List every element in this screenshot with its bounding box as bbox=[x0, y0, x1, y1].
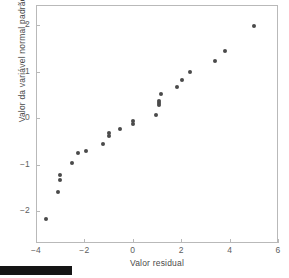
scatter-points-layer bbox=[0, 0, 289, 278]
x-axis-tick bbox=[230, 239, 231, 243]
x-axis-tick-label: 4 bbox=[218, 245, 242, 255]
x-axis-tick bbox=[133, 239, 134, 243]
data-point bbox=[213, 59, 217, 63]
data-point bbox=[58, 173, 62, 177]
x-axis-title: Valor residual bbox=[36, 258, 278, 268]
x-axis-tick-label: −2 bbox=[72, 245, 96, 255]
y-axis-tick bbox=[36, 72, 40, 73]
y-axis-tick bbox=[36, 211, 40, 212]
data-point bbox=[188, 70, 192, 74]
data-point bbox=[118, 127, 122, 131]
data-point bbox=[131, 119, 135, 123]
data-point bbox=[157, 99, 161, 103]
y-axis-title-text: Valor da variável normal padrão z bbox=[17, 0, 27, 122]
scan-edge-artifact bbox=[0, 266, 72, 275]
data-point bbox=[101, 142, 105, 146]
x-axis-tick-label: 6 bbox=[266, 245, 289, 255]
x-axis-tick bbox=[36, 239, 37, 243]
data-point bbox=[252, 24, 256, 28]
data-point bbox=[70, 161, 74, 165]
data-point bbox=[159, 92, 163, 96]
x-axis-tick bbox=[84, 239, 85, 243]
data-point bbox=[58, 178, 62, 182]
x-axis-tick-label: −4 bbox=[24, 245, 48, 255]
x-axis-tick-label: 2 bbox=[169, 245, 193, 255]
x-axis-tick bbox=[278, 239, 279, 243]
y-axis-tick bbox=[36, 165, 40, 166]
data-point bbox=[84, 149, 88, 153]
x-axis-tick-label: 0 bbox=[121, 245, 145, 255]
data-point bbox=[223, 49, 227, 53]
data-point bbox=[44, 217, 48, 221]
data-point bbox=[56, 190, 60, 194]
normal-probability-plot-figure: −4−20246210−1−2 Valor residual Valor da … bbox=[0, 0, 289, 278]
data-point bbox=[76, 151, 80, 155]
data-point bbox=[175, 85, 179, 89]
y-axis-tick-label: −1 bbox=[8, 159, 30, 169]
data-point bbox=[154, 113, 158, 117]
y-axis-tick bbox=[36, 25, 40, 26]
y-axis-title: Valor da variável normal padrão zj bbox=[17, 0, 27, 135]
y-axis-tick bbox=[36, 118, 40, 119]
data-point bbox=[107, 131, 111, 135]
x-axis-tick bbox=[181, 239, 182, 243]
data-point bbox=[180, 78, 184, 82]
y-axis-tick-label: −2 bbox=[8, 205, 30, 215]
